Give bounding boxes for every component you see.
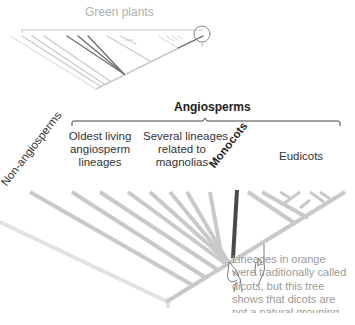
angiosperms-title: Angiosperms xyxy=(174,100,251,114)
green-plants-inset xyxy=(12,26,210,89)
green-plants-title: Green plants xyxy=(85,5,154,19)
eudicots-label: Eudicots xyxy=(279,150,323,163)
angiosperms-bracket xyxy=(72,118,340,126)
dicots-note: Lineages in orange were traditionally ca… xyxy=(232,253,352,313)
oldest-lineages-label: Oldest living angiosperm lineages xyxy=(66,130,134,169)
